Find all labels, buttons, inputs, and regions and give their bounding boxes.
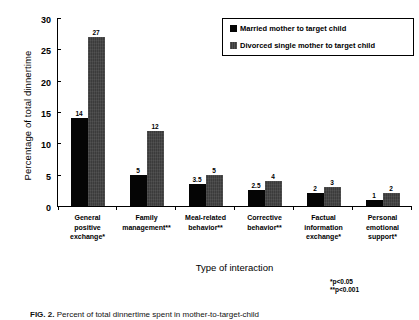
figure-number: FIG. 2. — [30, 310, 54, 319]
bar-pair: 512 — [117, 18, 176, 206]
bar: 27 — [88, 37, 105, 206]
bar: 3 — [324, 187, 341, 206]
bar-value-label: 2.5 — [251, 182, 260, 189]
y-axis-tick: 15 — [41, 103, 57, 121]
category-label-line: exchange* — [295, 232, 352, 242]
bar: 1 — [366, 200, 383, 206]
category-label-line: behavior** — [236, 223, 293, 233]
x-axis-category-label: Personalemotionalsupport* — [353, 213, 412, 242]
y-axis-tick: 0 — [46, 197, 57, 215]
y-axis-tick-label: 10 — [41, 140, 51, 150]
bar: 2 — [307, 193, 324, 206]
legend-swatch-icon-married — [230, 25, 237, 32]
x-axis-category-labels: Generalpositiveexchange*Familymanagement… — [58, 213, 412, 242]
x-axis-tick-mark — [411, 206, 412, 210]
bar: 5 — [130, 175, 147, 206]
x-axis-category-label: Meal-relatedbehavior** — [176, 213, 235, 242]
bar: 4 — [265, 181, 282, 206]
significance-notes: *p<0.05 **p<0.001 — [330, 278, 359, 294]
figure-caption: FIG. 2. Percent of total dinnertime spen… — [30, 310, 410, 320]
y-axis-tick: 20 — [41, 72, 57, 90]
bar: 2.5 — [248, 190, 265, 206]
y-axis-tick-label: 15 — [41, 109, 51, 119]
y-axis-tick-label: 20 — [41, 78, 51, 88]
x-axis-category-label: Familymanagement** — [117, 213, 176, 242]
bar-value-label: 3.5 — [192, 176, 201, 183]
figure-caption-text: Percent of total dinnertime spent in mot… — [57, 310, 259, 319]
bar-value-label: 2 — [389, 185, 393, 192]
x-axis-tick-mark — [58, 206, 59, 210]
y-axis-tick: 5 — [46, 166, 57, 184]
y-axis-tick-label: 0 — [46, 203, 51, 213]
x-axis-tick-mark — [175, 206, 176, 210]
category-label-line: Factual — [295, 213, 352, 223]
y-axis-title: Percentage of total dinnertime — [22, 16, 33, 216]
bar-value-label: 4 — [271, 173, 275, 180]
bar-value-label: 5 — [212, 167, 216, 174]
legend: Married mother to target child Divorced … — [222, 18, 414, 56]
bar-value-label: 14 — [75, 110, 82, 117]
x-axis-tick-mark — [293, 206, 294, 210]
x-axis-category-label: Factualinformationexchange* — [294, 213, 353, 242]
figure: Percentage of total dinnertime 051015202… — [0, 0, 419, 320]
bar-value-label: 2 — [313, 185, 317, 192]
category-label-line: Personal — [354, 213, 411, 223]
category-label-line: management** — [118, 223, 175, 233]
bar-value-label: 1 — [372, 192, 376, 199]
bar: 12 — [147, 131, 164, 206]
legend-label-divorced: Divorced single mother to target child — [240, 41, 375, 51]
bar-value-label: 5 — [136, 167, 140, 174]
y-axis-tick: 30 — [41, 9, 57, 27]
category-label-line: Corrective — [236, 213, 293, 223]
category-label-line: Meal-related — [177, 213, 234, 223]
bar-value-label: 27 — [92, 29, 99, 36]
x-axis-category-label: Correctivebehavior** — [235, 213, 294, 242]
x-axis-tick-mark — [116, 206, 117, 210]
bar-value-label: 3 — [330, 179, 334, 186]
legend-swatch-icon-divorced — [230, 42, 237, 49]
category-label-line: General — [59, 213, 116, 223]
category-label-line: emotional — [354, 223, 411, 233]
category-label-line: exchange* — [59, 232, 116, 242]
bar: 5 — [206, 175, 223, 206]
note-p001: **p<0.001 — [330, 286, 359, 294]
y-axis-tick: 10 — [41, 134, 57, 152]
legend-label-married: Married mother to target child — [240, 24, 346, 34]
x-axis-tick-mark — [352, 206, 353, 210]
bar-group: 1427 — [58, 18, 117, 206]
bar: 2 — [383, 193, 400, 206]
category-label-line: information — [295, 223, 352, 233]
category-label-line: behavior** — [177, 223, 234, 233]
x-axis-title: Type of interaction — [57, 262, 412, 273]
x-axis-tick-mark — [234, 206, 235, 210]
note-p05: *p<0.05 — [330, 278, 359, 286]
bar-group: 512 — [117, 18, 176, 206]
bar: 3.5 — [189, 184, 206, 206]
y-axis-tick-label: 30 — [41, 15, 51, 25]
legend-item-divorced: Divorced single mother to target child — [230, 41, 408, 51]
x-axis-category-label: Generalpositiveexchange* — [58, 213, 117, 242]
bar-value-label: 12 — [151, 123, 158, 130]
category-label-line: Family — [118, 213, 175, 223]
bar-pair: 1427 — [58, 18, 117, 206]
y-axis-tick-label: 25 — [41, 46, 51, 56]
y-axis-tick: 25 — [41, 40, 57, 58]
bar: 14 — [71, 118, 88, 206]
category-label-line: positive — [59, 223, 116, 233]
category-label-line: support* — [354, 232, 411, 242]
legend-item-married: Married mother to target child — [230, 24, 408, 34]
y-axis-tick-label: 5 — [46, 172, 51, 182]
